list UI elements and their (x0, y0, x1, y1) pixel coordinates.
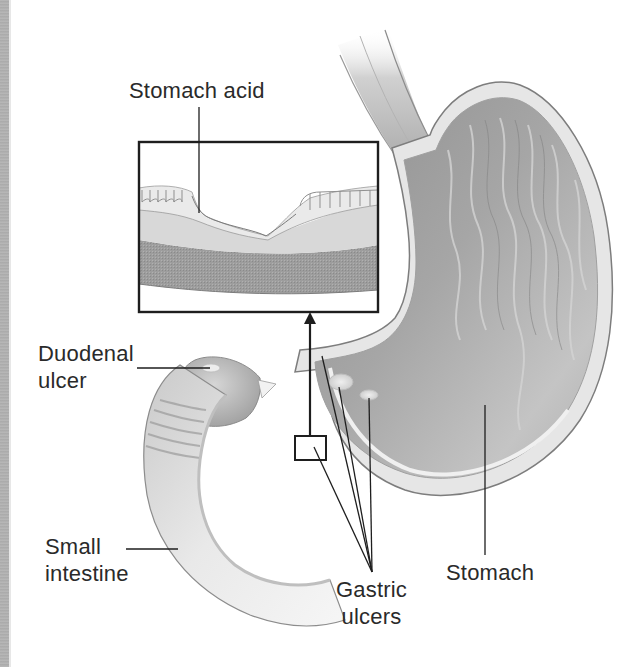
label-duodenal-ulcer-line1: Duodenal (38, 340, 134, 367)
label-duodenal-ulcer: Duodenal ulcer (38, 340, 134, 394)
label-gastric-ulcers-line2: ulcers (336, 603, 407, 630)
magnified-inset (139, 142, 378, 312)
magnification-marker (295, 436, 326, 460)
label-stomach: Stomach (446, 559, 534, 586)
label-small-intestine: Small intestine (45, 533, 129, 587)
label-small-intestine-line1: Small (45, 533, 129, 560)
label-small-intestine-line2: intestine (45, 560, 129, 587)
label-stomach-acid: Stomach acid (129, 77, 265, 104)
label-gastric-ulcers-line1: Gastric (336, 576, 407, 603)
label-stomach-text: Stomach (446, 559, 534, 586)
magnification-arrow (304, 312, 316, 436)
label-stomach-acid-text: Stomach acid (129, 77, 265, 104)
label-duodenal-ulcer-line2: ulcer (38, 367, 134, 394)
label-gastric-ulcers: Gastric ulcers (336, 576, 407, 630)
